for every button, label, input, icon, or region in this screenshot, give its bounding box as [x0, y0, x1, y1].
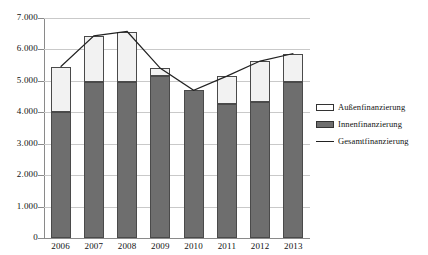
financing-stacked-bar-chart: 01.0002.0003.0004.0005.0006.0007.000 200…: [0, 0, 428, 255]
x-tick-label: 2007: [77, 241, 111, 251]
y-tick-label: 7.000: [2, 13, 38, 22]
legend-item-gesamtfinanzierung: Gesamtfinanzierung: [316, 134, 428, 148]
y-tick-label: 1.000: [2, 202, 38, 211]
gesamtfinanzierung-polyline: [61, 32, 294, 91]
legend-item-innenfinanzierung: Innenfinanzierung: [316, 117, 428, 131]
x-tick-label: 2011: [210, 241, 244, 251]
gridline: [44, 238, 310, 239]
x-tick-label: 2006: [44, 241, 78, 251]
swatch-outline-icon: [316, 104, 334, 111]
legend-item-label: Gesamtfinanzierung: [338, 136, 409, 146]
y-tick-label: 5.000: [2, 76, 38, 85]
y-axis: 01.0002.0003.0004.0005.0006.0007.000: [0, 0, 38, 255]
x-tick-label: 2012: [243, 241, 277, 251]
legend-item-label: Außenfinanzierung: [338, 102, 405, 112]
x-tick-label: 2008: [110, 241, 144, 251]
y-tick-label: 4.000: [2, 107, 38, 116]
x-tick-label: 2009: [143, 241, 177, 251]
legend-item-aussenfinanzierung: Außenfinanzierung: [316, 100, 428, 114]
chart-legend: Außenfinanzierung Innenfinanzierung Gesa…: [316, 100, 428, 151]
x-tick-label: 2010: [177, 241, 211, 251]
x-tick-label: 2013: [276, 241, 310, 251]
y-tick-label: 6.000: [2, 44, 38, 53]
plot-area: [44, 18, 310, 238]
line-marker-icon: [316, 141, 334, 142]
total-line-series: [44, 18, 310, 238]
legend-item-label: Innenfinanzierung: [338, 119, 402, 129]
y-tick-label: 2.000: [2, 170, 38, 179]
y-tick-label: 3.000: [2, 139, 38, 148]
y-tick-label: 0: [2, 233, 38, 242]
swatch-filled-icon: [316, 121, 334, 128]
